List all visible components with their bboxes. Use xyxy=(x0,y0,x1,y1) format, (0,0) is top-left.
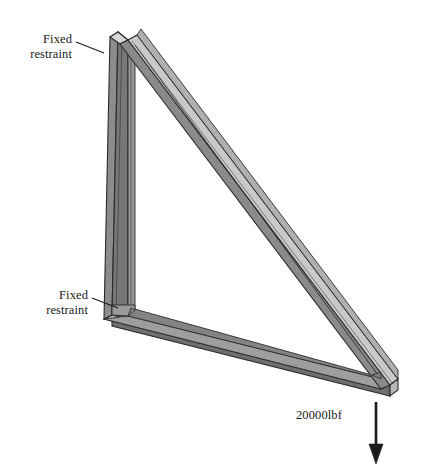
callout-top-line2: restraint xyxy=(4,47,72,62)
load-arrow xyxy=(369,402,383,464)
callout-bottom-line1: Fixed xyxy=(59,288,88,302)
leader-line-top xyxy=(76,42,104,53)
figure-canvas: Fixed restraint Fixed restraint 20000lbf xyxy=(0,0,423,475)
truss-illustration xyxy=(0,0,423,475)
load-arrow-head xyxy=(369,444,383,464)
callout-fixed-restraint-bottom: Fixed restraint xyxy=(20,288,88,318)
vertical-member xyxy=(104,32,135,319)
callout-top-line1: Fixed xyxy=(43,32,72,46)
vertical-member-inner-face xyxy=(128,40,135,316)
callout-fixed-restraint-top: Fixed restraint xyxy=(4,32,72,62)
load-label: 20000lbf xyxy=(296,408,342,423)
callout-bottom-line2: restraint xyxy=(20,303,88,318)
